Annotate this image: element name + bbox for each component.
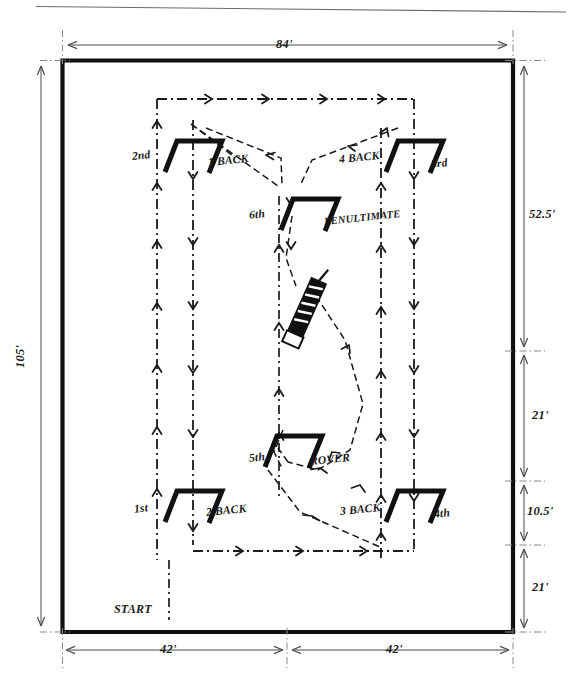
dim-right-21-upper: 21'	[532, 409, 549, 422]
wicket-label-1st: 1st	[133, 502, 148, 515]
dim-bottom-right: 42'	[386, 643, 403, 656]
dim-left-height: 105'	[14, 345, 27, 368]
dim-top-width: 84'	[276, 38, 293, 51]
court-boundary	[63, 61, 514, 633]
wicket-label-4th: 4th	[433, 507, 450, 520]
dimension-lines	[37, 30, 548, 668]
wicket-label-3rd: 3rd	[430, 157, 448, 170]
court-drawing	[0, 0, 575, 696]
wicket-label-2nd: 2nd	[131, 149, 151, 162]
wicket-label-6th: 6th	[248, 208, 265, 221]
dim-right-21-lower: 21'	[532, 581, 549, 594]
diagram-canvas: 84' 105' 52.5' 21' 10.5' 21' 42' 42' 2nd…	[0, 0, 575, 696]
start-label: START	[114, 603, 152, 615]
page-rule	[36, 7, 566, 13]
dim-right-52: 52.5'	[529, 208, 555, 221]
dim-bottom-left: 42'	[160, 643, 177, 656]
center-peg-icon	[282, 264, 333, 348]
wicket-label-5th: 5th	[248, 451, 265, 464]
dim-right-10-5: 10.5'	[527, 505, 553, 518]
